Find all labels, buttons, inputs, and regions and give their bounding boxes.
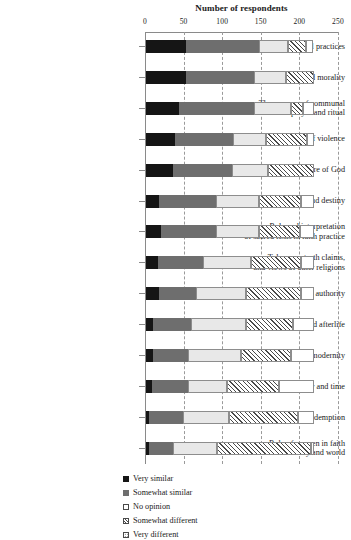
bar-segment xyxy=(173,164,232,177)
bar-segment xyxy=(279,380,315,393)
x-axis-line xyxy=(145,32,339,33)
bar-segment xyxy=(159,287,196,300)
y-axis-tick xyxy=(139,108,145,109)
y-axis-tick xyxy=(139,448,145,449)
bar-segment xyxy=(311,442,314,455)
y-axis-tick xyxy=(139,139,145,140)
bar-segment xyxy=(146,256,158,269)
bar-segment xyxy=(259,40,288,53)
gridline xyxy=(299,32,300,464)
legend-label: No opinion xyxy=(133,502,170,511)
bar-row xyxy=(146,287,314,300)
bar-segment xyxy=(268,164,314,177)
bar-segment xyxy=(301,256,314,269)
y-axis-tick xyxy=(139,417,145,418)
legend-item: Very different xyxy=(123,528,198,540)
y-axis-tick xyxy=(139,262,145,263)
y-axis-tick xyxy=(139,170,145,171)
bar-segment xyxy=(301,195,314,208)
bar-segment xyxy=(246,318,294,331)
bar-row xyxy=(146,195,314,208)
legend-swatch-icon xyxy=(123,490,129,496)
bar-segment xyxy=(233,133,266,146)
y-axis-tick xyxy=(139,293,145,294)
bar-segment xyxy=(217,442,311,455)
bar-segment xyxy=(254,102,291,115)
bar-segment xyxy=(146,287,159,300)
bar-segment xyxy=(291,349,314,362)
bar-segment xyxy=(146,102,179,115)
bar-segment xyxy=(146,40,186,53)
bar-segment xyxy=(146,133,175,146)
bar-segment xyxy=(298,411,314,424)
bar-row xyxy=(146,71,314,84)
bar-row xyxy=(146,40,313,53)
bar-segment xyxy=(183,411,229,424)
x-tick-label: 50 xyxy=(169,17,199,26)
bar-row xyxy=(146,442,314,455)
bar-segment xyxy=(161,225,217,238)
y-axis-tick xyxy=(139,355,145,356)
y-axis-tick xyxy=(139,201,145,202)
legend-swatch-icon xyxy=(123,518,129,524)
gridline xyxy=(338,32,339,464)
bar-segment xyxy=(286,71,315,84)
bar-segment xyxy=(227,380,279,393)
bar-row xyxy=(146,318,314,331)
bar-segment xyxy=(259,225,300,238)
bar-segment xyxy=(146,71,186,84)
gridline xyxy=(222,32,223,464)
bar-segment xyxy=(246,287,302,300)
legend-label: Somewhat different xyxy=(133,516,198,525)
bar-segment xyxy=(173,442,217,455)
y-axis-line xyxy=(145,32,146,464)
x-tick-label: 100 xyxy=(207,17,237,26)
y-axis-tick xyxy=(139,46,145,47)
bar-segment xyxy=(241,349,291,362)
bar-segment xyxy=(191,318,246,331)
legend-label: Very similar xyxy=(133,474,173,483)
bar-segment xyxy=(153,349,189,362)
bar-segment xyxy=(146,164,173,177)
bar-segment xyxy=(146,349,153,362)
bar-segment xyxy=(153,318,191,331)
y-axis-tick xyxy=(139,324,145,325)
bar-segment xyxy=(288,40,306,53)
bar-segment xyxy=(203,256,251,269)
bar-segment xyxy=(146,195,159,208)
bar-segment xyxy=(196,287,245,300)
bar-segment xyxy=(254,71,286,84)
legend-swatch-icon xyxy=(123,504,129,510)
x-tick-label: 250 xyxy=(323,17,351,26)
bar-row xyxy=(146,225,314,238)
y-axis-tick xyxy=(139,231,145,232)
bar-segment xyxy=(259,195,301,208)
bar-segment xyxy=(152,380,188,393)
bar-segment xyxy=(146,225,161,238)
bar-segment xyxy=(158,256,203,269)
stacked-bar-chart: Number of respondents 050100150200250 Th… xyxy=(0,0,351,540)
gridline xyxy=(184,32,185,464)
bar-row xyxy=(146,349,314,362)
bar-segment xyxy=(188,380,227,393)
bar-segment xyxy=(216,225,258,238)
bar-segment xyxy=(188,349,240,362)
bar-segment xyxy=(229,411,298,424)
x-tick-label: 0 xyxy=(130,17,160,26)
legend-item: No opinion xyxy=(123,500,198,513)
bar-segment xyxy=(175,133,233,146)
gridline xyxy=(261,32,262,464)
bar-row xyxy=(146,164,314,177)
bar-segment xyxy=(306,40,313,53)
bar-segment xyxy=(293,318,314,331)
bar-segment xyxy=(266,133,306,146)
bar-segment xyxy=(307,133,314,146)
y-axis-tick xyxy=(139,386,145,387)
bar-row xyxy=(146,133,314,146)
bar-segment xyxy=(291,102,303,115)
chart-title: Number of respondents xyxy=(145,3,338,13)
legend-item: Very similar xyxy=(123,472,198,485)
bar-segment xyxy=(232,164,268,177)
legend-swatch-icon xyxy=(123,532,129,538)
legend-item: Somewhat similar xyxy=(123,486,198,499)
